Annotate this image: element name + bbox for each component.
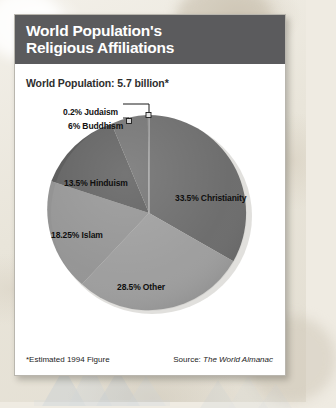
pie-chart: 0.2% Judaism 6% Buddhism 13.5% Hinduism … — [15, 92, 285, 342]
footnote-text: *Estimated 1994 Figure — [26, 355, 110, 364]
pie-label-judaism: 0.2% Judaism — [63, 107, 118, 117]
chart-subtitle: World Population: 5.7 billion* — [26, 77, 169, 89]
page-title-line-1: World Population's — [26, 22, 274, 39]
leader-line-judaism — [123, 104, 149, 115]
pie-label-christianity: 33.5% Christianity — [175, 193, 246, 203]
page-title-line-2: Religious Affiliations — [26, 39, 274, 56]
leader-marker-buddhism — [127, 119, 132, 124]
card-body: World Population: 5.7 billion* — [15, 64, 285, 376]
source-prefix: Source: — [173, 355, 203, 364]
source-publication-name: The World Almanac — [203, 355, 273, 364]
pie-chart-svg — [15, 92, 285, 342]
card-header: World Population's Religious Affiliation… — [15, 15, 285, 64]
leader-marker-judaism — [146, 113, 151, 118]
source-credit: Source: The World Almanac — [173, 355, 273, 364]
infographic-card: World Population's Religious Affiliation… — [14, 14, 286, 376]
pie-label-hinduism: 13.5% Hinduism — [64, 178, 128, 188]
pie-label-islam: 18.25% Islam — [51, 230, 103, 240]
pie-label-buddhism: 6% Buddhism — [68, 121, 123, 131]
card-footer: *Estimated 1994 Figure Source: The World… — [15, 355, 285, 369]
pie-label-other: 28.5% Other — [117, 282, 165, 292]
